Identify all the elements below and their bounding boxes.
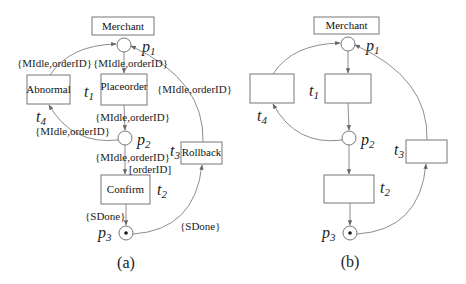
transition-t4-b: t4	[250, 74, 294, 126]
merchant-box-b: Merchant	[314, 17, 379, 34]
p2-label-b: p2	[360, 131, 375, 150]
t4-label-b: t4	[257, 107, 267, 126]
t2-label-b: t2	[380, 179, 390, 198]
arc-label-p2-t4: {MIdle,orderID}	[35, 125, 110, 137]
figure-b: Merchant p1 t1 t4 p2 t3 t2	[250, 17, 447, 271]
place-p3-a: p3	[97, 224, 133, 243]
p3-label-a: p3	[97, 224, 112, 243]
rollback-label: Rollback	[182, 146, 222, 158]
transition-t1-a: Placeorder t1	[84, 74, 148, 105]
petri-net-figure: Merchant p1 Placeorder t1 Abnormal t4 p2…	[0, 0, 466, 284]
token-icon	[348, 231, 352, 235]
transition-t1-b: t1	[309, 74, 371, 103]
guard-label-p2-t2: [orderID]	[129, 163, 171, 175]
transition-t3-b: t3	[394, 140, 447, 163]
transition-t3-a: Rollback t3	[170, 142, 222, 164]
transition-t4-a: Abnormal t4	[26, 75, 71, 127]
arc-label-t4-p1: {MIdle,orderID}	[17, 57, 92, 69]
place-p3-b: p3	[321, 224, 357, 243]
p2-label-a: p2	[136, 131, 151, 150]
figure-a: Merchant p1 Placeorder t1 Abnormal t4 p2…	[17, 17, 232, 272]
place-p1-b: p1	[341, 37, 380, 56]
transition-t2-b: t2	[324, 175, 390, 203]
abnormal-label: Abnormal	[26, 83, 71, 95]
place-p1-a: p1	[117, 38, 156, 57]
caption-a: (a)	[117, 254, 135, 272]
token-icon	[124, 231, 128, 235]
t3-label-b: t3	[394, 141, 404, 160]
merchant-label-a: Merchant	[102, 20, 144, 32]
confirm-label: Confirm	[107, 183, 145, 195]
arc-label-t3-p1: {MIdle,orderID}	[157, 83, 232, 95]
place-p2-b: p2	[342, 131, 375, 150]
caption-b: (b)	[341, 253, 360, 271]
p1-label-a: p1	[141, 38, 156, 57]
place-p2-a: p2	[118, 131, 151, 150]
t1-label-b: t1	[309, 82, 319, 101]
placeorder-label: Placeorder	[100, 80, 147, 92]
transition-t2-a: Confirm t2	[101, 175, 167, 204]
arc-label-p2-t2: {MIdle,orderID}	[95, 151, 170, 163]
merchant-label-b: Merchant	[325, 19, 367, 31]
t2-label-a: t2	[157, 181, 167, 200]
merchant-box-a: Merchant	[92, 17, 154, 35]
arc-label-p1-t1: {MIdle,orderID}	[93, 57, 168, 69]
arc-label-t1-p2: {MIdle,orderID}	[95, 111, 170, 123]
t1-label-a: t1	[84, 83, 94, 102]
p3-label-b: p3	[321, 224, 336, 243]
t3-label-a: t3	[170, 142, 180, 161]
arc-label-p3-t3: {SDone}	[180, 220, 221, 232]
arc-label-t2-p3: {SDone}	[85, 210, 126, 222]
